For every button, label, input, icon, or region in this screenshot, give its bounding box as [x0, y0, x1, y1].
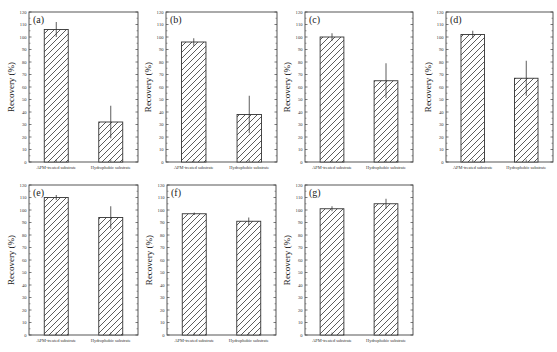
bar-hydrophobic: [99, 218, 123, 336]
panel-g: 0102030405060708090100110120Recovery (%)…: [282, 183, 413, 343]
y-tick-label: 40: [22, 110, 27, 115]
y-tick-label: 20: [298, 308, 303, 313]
y-tick-label: 30: [22, 295, 27, 300]
y-tick-label: 80: [298, 233, 303, 238]
y-tick-label: 0: [300, 160, 303, 165]
bar-apm-treated: [44, 30, 68, 163]
y-axis-label: Recovery (%): [143, 62, 153, 112]
x-tick-label: APM-treated substrate: [312, 338, 352, 343]
x-tick-label: Hydrophobic substrate: [91, 338, 131, 343]
y-tick-label: 90: [22, 47, 27, 52]
y-tick-label: 90: [160, 220, 165, 225]
panel-label: (c): [309, 14, 320, 26]
x-tick-label: Hydrophobic substrate: [91, 165, 131, 170]
y-tick-label: 80: [298, 60, 303, 65]
y-tick-label: 10: [22, 147, 27, 152]
x-tick-label: APM-treated substrate: [36, 165, 76, 170]
y-tick-label: 70: [160, 245, 165, 250]
y-tick-label: 100: [296, 208, 304, 213]
y-tick-label: 20: [22, 135, 27, 140]
panel-c: 0102030405060708090100110120Recovery (%)…: [282, 10, 413, 170]
y-tick-label: 20: [298, 135, 303, 140]
y-tick-label: 60: [22, 258, 27, 263]
y-tick-label: 20: [22, 308, 27, 313]
y-tick-label: 120: [437, 10, 445, 15]
y-tick-label: 50: [22, 97, 27, 102]
panel-label: (f): [171, 187, 181, 199]
y-tick-label: 60: [160, 258, 165, 263]
x-tick-label: APM-treated substrate: [36, 338, 76, 343]
x-tick-label: APM-treated substrate: [174, 338, 214, 343]
panel-f: 0102030405060708090100110120Recovery (%)…: [144, 183, 276, 343]
y-axis-label: Recovery (%): [423, 62, 433, 112]
bar-hydrophobic: [374, 204, 398, 335]
y-tick-label: 100: [20, 35, 28, 40]
y-tick-label: 120: [296, 183, 304, 188]
y-tick-label: 30: [159, 122, 164, 127]
y-tick-label: 50: [439, 97, 444, 102]
y-tick-label: 70: [298, 245, 303, 250]
y-tick-label: 40: [22, 283, 27, 288]
y-tick-label: 110: [157, 22, 164, 27]
y-tick-label: 10: [160, 320, 165, 325]
y-tick-label: 50: [22, 270, 27, 275]
y-tick-label: 110: [296, 195, 303, 200]
y-tick-label: 80: [439, 60, 444, 65]
x-tick-label: Hydrophobic substrate: [366, 165, 406, 170]
y-tick-label: 20: [160, 308, 165, 313]
y-tick-label: 80: [160, 233, 165, 238]
y-tick-label: 40: [298, 110, 303, 115]
x-tick-label: APM-treated substrate: [453, 165, 493, 170]
y-tick-label: 110: [158, 195, 165, 200]
panel-a: 0102030405060708090100110120Recovery (%)…: [6, 10, 138, 170]
y-tick-label: 120: [158, 183, 166, 188]
y-tick-label: 20: [159, 135, 164, 140]
y-tick-label: 10: [159, 147, 164, 152]
y-tick-label: 80: [22, 233, 27, 238]
y-tick-label: 40: [298, 283, 303, 288]
y-tick-label: 0: [300, 333, 303, 338]
y-tick-label: 10: [439, 147, 444, 152]
y-tick-label: 100: [158, 208, 166, 213]
y-tick-label: 10: [22, 320, 27, 325]
x-tick-label: APM-treated substrate: [174, 165, 214, 170]
y-axis-label: Recovery (%): [144, 235, 154, 285]
y-tick-label: 30: [298, 122, 303, 127]
y-tick-label: 50: [160, 270, 165, 275]
y-axis-label: Recovery (%): [282, 62, 292, 112]
y-tick-label: 90: [298, 220, 303, 225]
y-tick-label: 110: [296, 22, 303, 27]
y-tick-label: 110: [20, 22, 27, 27]
y-axis-label: Recovery (%): [6, 62, 16, 112]
y-tick-label: 100: [157, 35, 165, 40]
y-tick-label: 30: [439, 122, 444, 127]
x-tick-label: Hydrophobic substrate: [366, 338, 406, 343]
y-tick-label: 70: [159, 72, 164, 77]
y-tick-label: 90: [22, 220, 27, 225]
y-tick-label: 40: [439, 110, 444, 115]
y-tick-label: 110: [20, 195, 27, 200]
y-tick-label: 120: [157, 10, 165, 15]
y-tick-label: 40: [160, 283, 165, 288]
y-tick-label: 40: [159, 110, 164, 115]
y-tick-label: 10: [298, 320, 303, 325]
panel-e: 0102030405060708090100110120Recovery (%)…: [6, 183, 138, 343]
panel-label: (a): [33, 14, 44, 26]
y-tick-label: 0: [162, 333, 165, 338]
y-tick-label: 70: [22, 245, 27, 250]
y-tick-label: 80: [22, 60, 27, 65]
y-tick-label: 110: [437, 22, 444, 27]
y-tick-label: 100: [437, 35, 445, 40]
y-tick-label: 100: [20, 208, 28, 213]
y-tick-label: 120: [20, 10, 28, 15]
bar-apm-treated: [320, 209, 344, 335]
y-tick-label: 70: [439, 72, 444, 77]
figure-multi-panel-bar-charts: 0102030405060708090100110120Recovery (%)…: [0, 0, 557, 352]
y-tick-label: 60: [298, 85, 303, 90]
y-tick-label: 120: [296, 10, 304, 15]
y-tick-label: 30: [298, 295, 303, 300]
panel-label: (e): [33, 187, 44, 199]
y-tick-label: 60: [439, 85, 444, 90]
x-tick-label: Hydrophobic substrate: [506, 165, 546, 170]
bar-apm-treated: [182, 42, 206, 162]
